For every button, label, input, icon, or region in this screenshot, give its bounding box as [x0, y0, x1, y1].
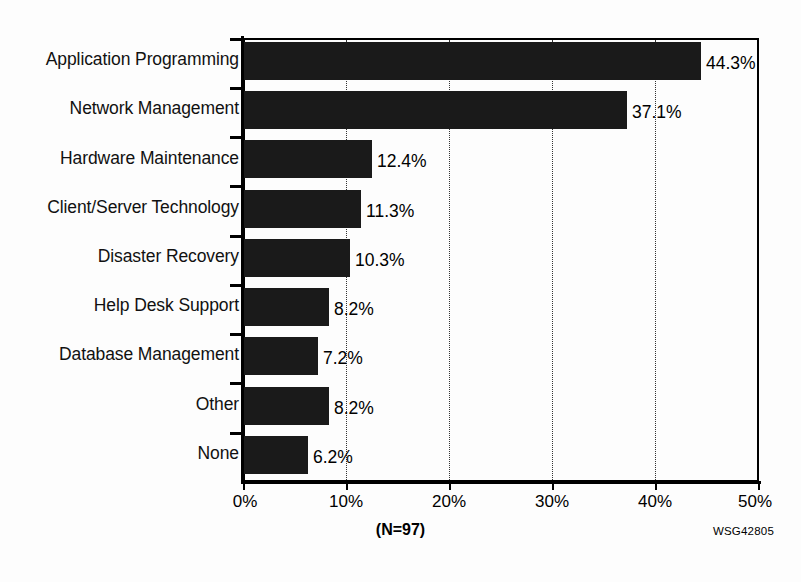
- x-tick-40: [655, 481, 657, 490]
- y-tick-7: [230, 382, 243, 385]
- category-label-client-server-technology: Client/Server Technology: [0, 199, 239, 217]
- y-tick-6: [230, 333, 243, 336]
- bar-database-management: [244, 337, 318, 375]
- document-code: WSG42805: [713, 525, 774, 537]
- x-tick-label-0: 0%: [233, 492, 258, 512]
- y-tick-3: [230, 185, 243, 188]
- x-tick-50: [758, 481, 760, 490]
- x-tick-0: [243, 481, 245, 490]
- bar-network-management: [244, 91, 627, 129]
- x-tick-label-20: 20%: [432, 492, 466, 512]
- value-label-none: 6.2%: [313, 449, 353, 467]
- category-label-application-programming: Application Programming: [0, 51, 239, 69]
- category-label-hardware-maintenance: Hardware Maintenance: [0, 150, 239, 168]
- category-label-other: Other: [0, 396, 239, 414]
- value-label-help-desk-support: 8.2%: [334, 301, 374, 319]
- y-tick-1: [230, 87, 243, 90]
- bar-other: [244, 387, 329, 425]
- bar-client-server-technology: [244, 190, 361, 228]
- category-label-disaster-recovery: Disaster Recovery: [0, 248, 239, 266]
- x-tick-10: [346, 481, 348, 490]
- value-label-disaster-recovery: 10.3%: [355, 252, 405, 270]
- y-tick-0: [230, 38, 243, 41]
- category-label-help-desk-support: Help Desk Support: [0, 297, 239, 315]
- category-label-network-management: Network Management: [0, 100, 239, 118]
- horizontal-bar-chart: Application Programming Network Manageme…: [0, 0, 801, 582]
- x-tick-label-30: 30%: [535, 492, 569, 512]
- value-label-database-management: 7.2%: [323, 350, 363, 368]
- x-tick-label-10: 10%: [329, 492, 363, 512]
- bar-help-desk-support: [244, 288, 329, 326]
- category-label-none: None: [0, 445, 239, 463]
- bar-hardware-maintenance: [244, 140, 372, 178]
- value-label-application-programming: 44.3%: [706, 55, 756, 73]
- y-tick-4: [230, 235, 243, 238]
- y-tick-2: [230, 136, 243, 139]
- value-label-network-management: 37.1%: [632, 104, 682, 122]
- bar-application-programming: [244, 42, 701, 80]
- value-label-client-server-technology: 11.3%: [366, 203, 414, 221]
- x-tick-label-50: 50%: [738, 492, 772, 512]
- value-label-other: 8.2%: [334, 400, 374, 418]
- bar-none: [244, 436, 308, 474]
- y-tick-8: [230, 432, 243, 435]
- y-tick-5: [230, 284, 243, 287]
- bar-disaster-recovery: [244, 239, 350, 277]
- category-label-database-management: Database Management: [0, 346, 239, 364]
- x-tick-label-40: 40%: [638, 492, 672, 512]
- sample-size-note: (N=97): [0, 521, 801, 539]
- x-tick-30: [552, 481, 554, 490]
- x-tick-20: [449, 481, 451, 490]
- value-label-hardware-maintenance: 12.4%: [377, 153, 427, 171]
